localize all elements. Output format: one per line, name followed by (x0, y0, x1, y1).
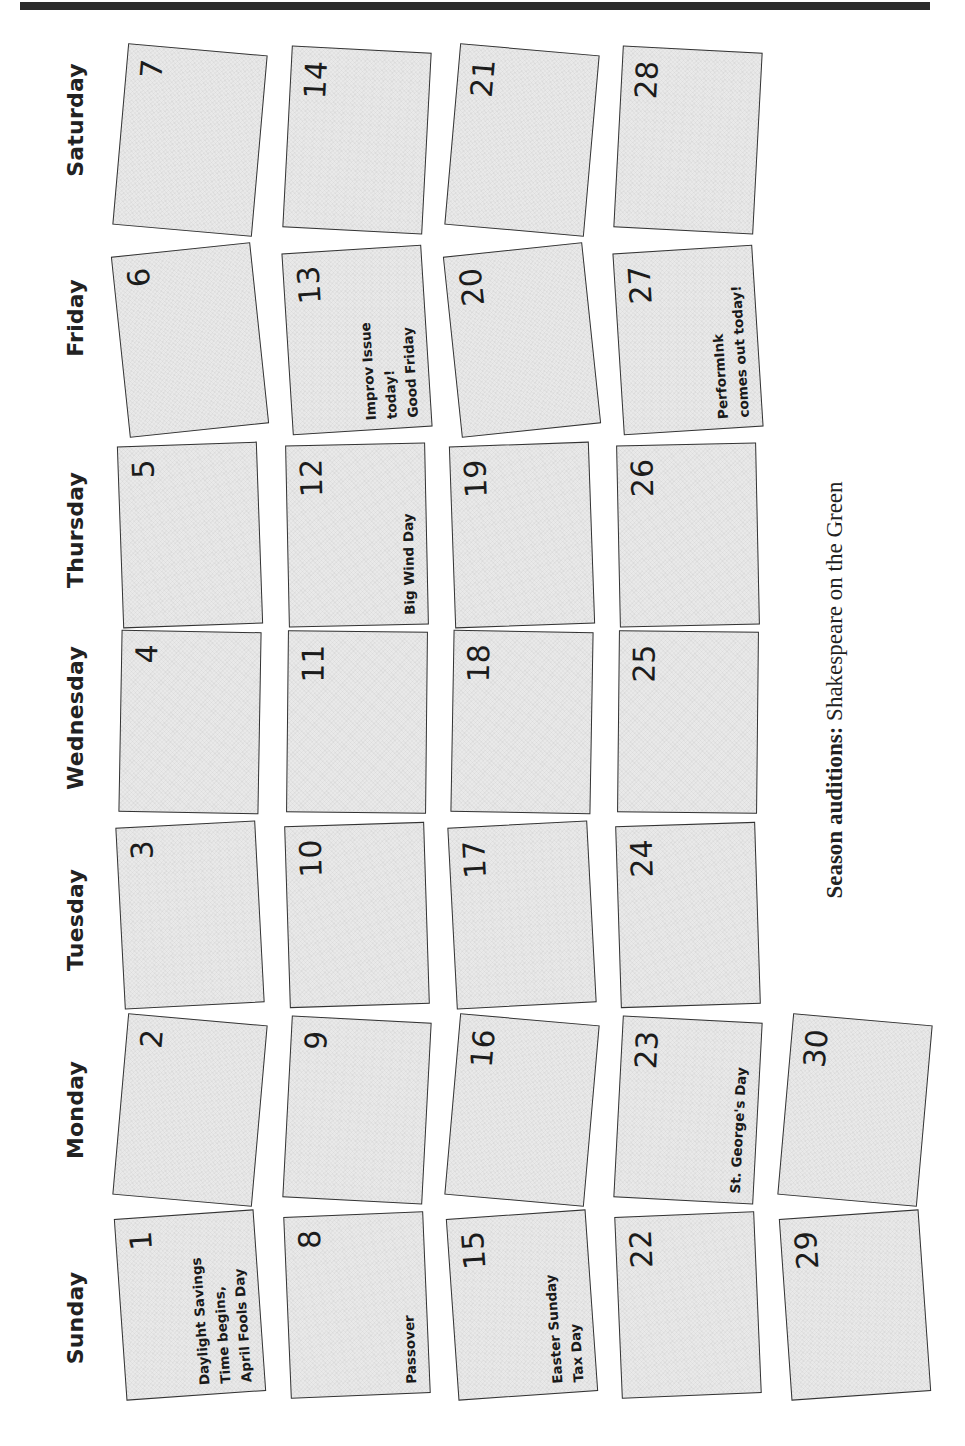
day-number: 9 (298, 1030, 334, 1051)
day-tile-4: 4 (118, 630, 261, 814)
day-tile-19: 19 (449, 442, 595, 629)
day-tile-8: 8Passover (283, 1211, 430, 1399)
day-number: 28 (628, 60, 665, 100)
day-tile-20: 20 (443, 242, 601, 438)
day-event-note: St. George's Day (725, 1031, 754, 1194)
day-tile-15: 15Easter SundayTax Day (446, 1209, 598, 1400)
day-number: 13 (290, 265, 327, 305)
day-number: 1 (123, 1230, 159, 1251)
day-number: 20 (452, 266, 491, 308)
day-tile-2: 2 (112, 1013, 267, 1207)
day-number: 7 (133, 58, 170, 80)
day-number: 3 (124, 840, 160, 861)
day-tile-18: 18 (450, 630, 593, 814)
weekday-label-text: Friday (63, 279, 88, 356)
day-number: 15 (455, 1230, 493, 1271)
day-number: 29 (788, 1230, 826, 1271)
day-number: 2 (133, 1028, 170, 1050)
day-tile-12: 12Big Wind Day (285, 443, 429, 628)
footer-label: Season auditions: (822, 727, 847, 899)
day-number: 6 (120, 266, 157, 289)
day-number: 24 (624, 839, 660, 878)
day-number: 12 (293, 459, 329, 498)
day-event-note: PerformInkcomes out today! (703, 255, 755, 419)
day-tile-25: 25 (617, 630, 759, 813)
day-number: 8 (292, 1229, 328, 1250)
day-number: 23 (628, 1030, 665, 1070)
footer-text: Shakespeare on the Green (822, 481, 847, 720)
day-tile-22: 22 (614, 1211, 761, 1399)
day-number: 27 (621, 265, 658, 305)
event-line: Big Wind Day (396, 453, 420, 615)
day-event-note: Passover (395, 1221, 423, 1384)
header-bar (20, 2, 930, 10)
day-tile-9: 9 (282, 1015, 431, 1204)
weekday-label-text: Tuesday (63, 869, 88, 971)
day-tile-7: 7 (112, 43, 267, 237)
day-tile-23: 23St. George's Day (613, 1015, 762, 1204)
day-event-note: Daylight SavingsTime begins,April Fools … (184, 1220, 258, 1386)
day-number: 22 (623, 1229, 660, 1269)
day-tile-6: 6 (111, 242, 269, 438)
day-number: 26 (624, 459, 660, 498)
day-tile-5: 5 (117, 442, 263, 629)
weekday-label-text: Wednesday (63, 646, 88, 790)
day-tile-10: 10 (284, 822, 430, 1008)
day-tile-21: 21 (444, 43, 599, 237)
day-event-note: Improv Issuetoday!Good Friday (351, 255, 424, 421)
day-number: 17 (456, 840, 493, 880)
day-tile-24: 24 (615, 822, 761, 1008)
day-tile-28: 28 (613, 45, 762, 234)
day-tile-16: 16 (444, 1013, 599, 1207)
day-tile-29: 29 (779, 1209, 931, 1400)
day-number: 25 (626, 644, 661, 683)
weekday-label-text: Saturday (63, 63, 88, 177)
day-number: 19 (457, 459, 493, 498)
day-tile-1: 1Daylight SavingsTime begins,April Fools… (114, 1209, 266, 1400)
weekday-label-text: Sunday (63, 1272, 88, 1365)
day-number: 30 (797, 1028, 835, 1069)
day-number: 11 (295, 644, 330, 683)
day-tile-26: 26 (616, 443, 760, 628)
day-event-note: Big Wind Day (396, 453, 420, 615)
day-tile-11: 11 (286, 630, 428, 813)
day-number: 21 (464, 58, 502, 99)
day-event-note: Easter SundayTax Day (536, 1220, 589, 1385)
day-tile-27: 27PerformInkcomes out today! (612, 245, 763, 435)
weekday-label-text: Monday (63, 1061, 88, 1159)
day-number: 18 (461, 644, 497, 683)
day-tile-17: 17 (447, 820, 596, 1009)
event-line: Passover (395, 1221, 423, 1384)
event-line: St. George's Day (725, 1031, 754, 1194)
day-tile-3: 3 (115, 820, 264, 1009)
day-number: 10 (293, 839, 329, 878)
day-number: 5 (125, 459, 161, 479)
day-number: 14 (297, 60, 334, 100)
day-number: 4 (129, 644, 164, 664)
day-tile-14: 14 (282, 45, 431, 234)
day-tile-13: 13Improv Issuetoday!Good Friday (281, 245, 432, 435)
day-tile-30: 30 (777, 1013, 932, 1207)
weekday-label-text: Thursday (63, 472, 88, 588)
day-number: 16 (464, 1028, 502, 1069)
